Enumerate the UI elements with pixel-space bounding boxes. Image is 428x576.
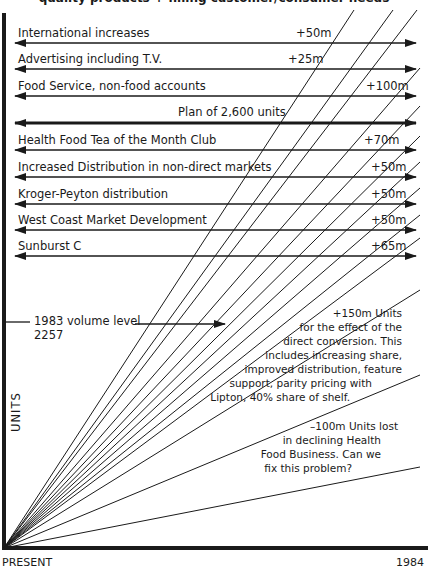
plan-label: Plan of 2,600 units (178, 105, 286, 119)
initiative-label: Advertising including T.V. (18, 52, 162, 66)
y-axis-label: UNITS (9, 392, 23, 432)
initiative-value: +50m (296, 26, 331, 40)
initiative-label: Health Food Tea of the Month Club (18, 133, 216, 147)
initiative-value: +70m (364, 133, 399, 147)
baseline-label: 1983 volume level 2257 (34, 314, 141, 342)
initiative-value: +65m (371, 239, 406, 253)
initiative-label: Kroger-Peyton distribution (18, 187, 168, 201)
decline-note: –100m Units lost in declining Health Foo… (261, 419, 398, 475)
initiative-value: +100m (366, 79, 409, 93)
initiative-value: +50m (371, 187, 406, 201)
initiative-value: +25m (288, 52, 323, 66)
initiative-label: Sunburst C (18, 239, 81, 253)
x-axis-end-label: 1984 (396, 556, 424, 569)
initiative-value: +50m (371, 160, 406, 174)
initiative-label: International increases (18, 26, 150, 40)
conversion-note: +150m Units for the effect of the direct… (210, 306, 402, 404)
initiative-value: +50m (371, 213, 406, 227)
initiative-label: Food Service, non-food accounts (18, 79, 206, 93)
x-axis-start-label: PRESENT (2, 556, 52, 569)
initiative-label: West Coast Market Development (18, 213, 207, 227)
initiative-label: Increased Distribution in non-direct mar… (18, 160, 272, 174)
